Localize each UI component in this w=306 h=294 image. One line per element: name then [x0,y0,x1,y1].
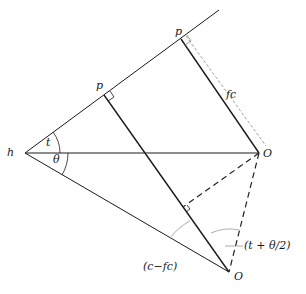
right-angle-mark-middle-p [108,91,114,101]
angle-arc-t [53,132,60,153]
label-angle-t: t [46,137,50,148]
label-o-right: O [263,148,272,159]
angle-arc-t-plus-theta [211,229,239,233]
label-p-upper: p [175,26,182,37]
label-t-plus-theta-half: (t + θ/2) [244,240,291,251]
angle-arc-theta [62,153,68,175]
fc-segment [181,39,259,153]
dashed-perpendicular [183,153,259,207]
diagram-canvas: h t θ p p fc O O (c−fc) (t + θ/2) [0,0,306,294]
upper-ray [25,10,219,153]
middle-perpendicular [104,95,229,272]
angle-arc-c-minus-fc [170,221,190,238]
label-p-middle: p [96,80,103,91]
lower-line [25,153,229,272]
label-angle-theta: θ [53,154,60,165]
label-h: h [7,147,14,158]
label-o-bottom: O [234,271,243,282]
label-fc: fc [226,89,236,100]
label-c-minus-fc: (c−fc) [143,261,177,272]
